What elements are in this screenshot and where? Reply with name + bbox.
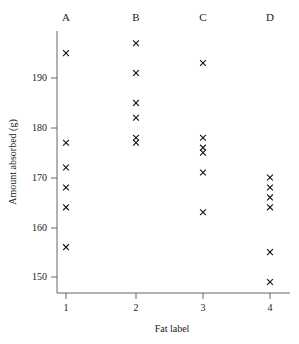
- x-tick-label-3: 3: [201, 302, 206, 313]
- category-label-c: C: [199, 11, 206, 23]
- y-axis-title: Amount absorbed (g): [7, 119, 19, 205]
- x-tick-label-2: 2: [134, 302, 139, 313]
- x-tick-label-1: 1: [64, 302, 69, 313]
- category-label-a: A: [62, 11, 70, 23]
- category-label-b: B: [132, 11, 139, 23]
- chart-svg: A B C D 190 180 170 160 150 1 2 3 4 Fat …: [0, 0, 299, 344]
- scatter-plot-figure: A B C D 190 180 170 160 150 1 2 3 4 Fat …: [0, 0, 299, 344]
- y-tick-label-170: 170: [32, 172, 47, 183]
- y-tick-label-180: 180: [32, 122, 47, 133]
- x-axis-title: Fat label: [155, 323, 190, 334]
- y-tick-label-190: 190: [32, 72, 47, 83]
- y-tick-label-150: 150: [32, 271, 47, 282]
- category-label-d: D: [266, 11, 274, 23]
- y-tick-label-160: 160: [32, 222, 47, 233]
- x-tick-label-4: 4: [268, 302, 273, 313]
